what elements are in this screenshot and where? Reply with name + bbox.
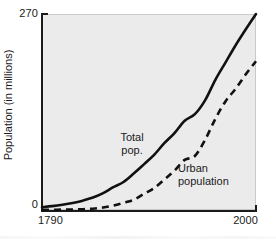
population-line-chart: Total pop. Urban population 270 0 1790 2… [0, 0, 276, 243]
series-label-total-line2: pop. [110, 144, 154, 157]
scan-artifact-strip [0, 236, 276, 239]
series-label-total-line1: Total [120, 131, 143, 143]
series-label-urban-line1: Urban [178, 162, 208, 174]
x-axis-max-label: 2000 [228, 214, 258, 226]
series-label-total-pop: Total pop. [110, 131, 154, 156]
x-axis-min-label: 1790 [38, 214, 63, 226]
series-label-urban-line2: population [178, 175, 229, 188]
y-axis-title-container: Population (in millions) [0, 0, 16, 210]
y-axis-title: Population (in millions) [2, 50, 14, 161]
y-axis-min-label: 0 [22, 198, 38, 210]
x-axis-line [41, 210, 257, 212]
series-label-urban-population: Urban population [178, 162, 229, 187]
